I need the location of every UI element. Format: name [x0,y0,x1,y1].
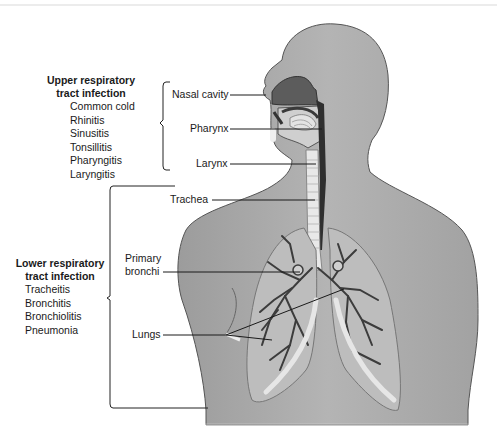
lower-item: Pneumonia [25,324,110,338]
lower-item: Tracheitis [25,283,110,297]
upper-item: Tonsillitis [70,141,152,155]
upper-item: Sinusitis [70,127,152,141]
anatomy-illustration [0,0,497,441]
lower-item: Bronchitis [25,297,110,311]
upper-respiratory-group: Upper respiratory tract infection Common… [30,74,152,181]
lower-item: Bronchiolitis [25,310,110,324]
label-primary-bronchi-line2: bronchi [125,265,159,279]
label-nasal-cavity: Nasal cavity [172,88,229,102]
upper-bracket [160,82,170,170]
upper-group-title-line1: Upper respiratory [30,74,152,87]
label-larynx: Larynx [196,157,228,171]
label-pharynx: Pharynx [190,122,229,136]
upper-item: Rhinitis [70,114,152,128]
label-primary-bronchi-line1: Primary [125,252,161,266]
label-trachea: Trachea [170,193,208,207]
lower-respiratory-group: Lower respiratory tract infection Trache… [10,257,110,337]
body-silhouette [178,24,478,425]
upper-item: Laryngitis [70,168,152,182]
label-lungs: Lungs [132,328,161,342]
lower-group-title-line2: tract infection [10,270,110,283]
lower-group-title-line1: Lower respiratory [10,257,110,270]
upper-group-title-line2: tract infection [30,87,152,100]
upper-item: Pharyngitis [70,154,152,168]
upper-item: Common cold [70,100,152,114]
